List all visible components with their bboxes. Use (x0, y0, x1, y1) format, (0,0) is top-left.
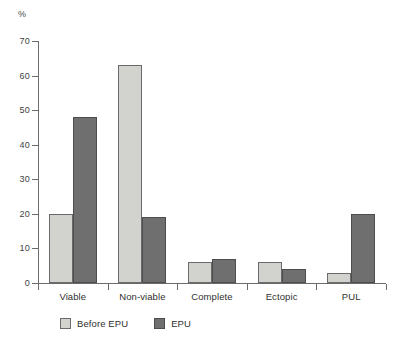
legend-label: EPU (171, 318, 191, 329)
legend-swatch-icon (154, 318, 165, 329)
y-axis-tick-label: 30 (6, 174, 30, 184)
y-axis-tick-label: 60 (6, 71, 30, 81)
legend-label: Before EPU (77, 318, 128, 329)
legend-swatch-icon (60, 318, 71, 329)
x-axis-tick (177, 284, 178, 290)
bar-chart: % 010203040506070 ViableNon-viableComple… (0, 0, 399, 347)
y-axis-tick-label: 0 (6, 278, 30, 288)
x-axis-tick (108, 284, 109, 290)
plot-area (38, 41, 386, 283)
bar-non-viable-before-epu (118, 65, 142, 283)
bar-ectopic-epu (282, 269, 306, 283)
x-axis-tick (38, 284, 39, 290)
bar-viable-epu (73, 117, 97, 283)
bar-pul-epu (351, 214, 375, 283)
bar-non-viable-epu (142, 217, 166, 283)
x-axis-tick (386, 284, 387, 290)
bar-pul-before-epu (327, 273, 351, 283)
y-axis-tick-label: 10 (6, 243, 30, 253)
x-axis-tick (247, 284, 248, 290)
y-axis-tick-label: 70 (6, 36, 30, 46)
y-axis-tick-label: 40 (6, 140, 30, 150)
x-axis-label-pul: PUL (342, 291, 361, 302)
y-axis-tick-label: 20 (6, 209, 30, 219)
x-axis-label-viable: Viable (59, 291, 86, 302)
y-axis-tick-label: 50 (6, 105, 30, 115)
x-axis-label-complete: Complete (191, 291, 232, 302)
bar-ectopic-before-epu (258, 262, 282, 283)
bar-viable-before-epu (49, 214, 73, 283)
chart-legend: Before EPUEPU (60, 318, 191, 329)
x-axis-label-non-viable: Non-viable (119, 291, 165, 302)
x-axis-tick (316, 284, 317, 290)
x-axis-label-ectopic: Ectopic (266, 291, 298, 302)
x-axis-line (38, 283, 386, 284)
legend-item-before-epu: Before EPU (60, 318, 128, 329)
y-axis-unit-label: % (18, 9, 26, 19)
bar-complete-epu (212, 259, 236, 283)
legend-item-epu: EPU (154, 318, 191, 329)
bar-complete-before-epu (188, 262, 212, 283)
